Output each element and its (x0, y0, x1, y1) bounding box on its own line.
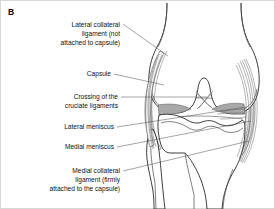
label-line: attached to capsule) (61, 39, 120, 47)
label-line: Medial collateral (72, 167, 120, 174)
label-line: ligament (firmly (75, 176, 120, 184)
label-capsule: Capsule (87, 70, 112, 78)
cruciate-ligaments (196, 91, 213, 109)
label-lateral-meniscus: Lateral meniscus (64, 123, 115, 130)
knee-joint-illustration (145, 3, 259, 209)
label-line: Crossing of the (74, 93, 119, 101)
tibia (158, 114, 245, 209)
label-line: attached to the capsule) (50, 185, 120, 193)
label-line: Lateral meniscus (64, 123, 115, 130)
anatomical-figure-panel: B (0, 0, 275, 209)
panel-letter: B (8, 7, 14, 17)
label-line: ligament (not (82, 30, 120, 38)
label-line: Medial meniscus (65, 143, 115, 150)
label-medial-meniscus: Medial meniscus (65, 143, 115, 150)
label-line: Lateral collateral (72, 21, 121, 28)
label-cruciate-ligaments: Crossing of the cruciate ligaments (65, 93, 119, 110)
label-lateral-collateral-ligament: Lateral collateral ligament (not attache… (61, 21, 121, 47)
label-line: Capsule (87, 70, 112, 78)
label-line: cruciate ligaments (65, 102, 119, 110)
label-medial-collateral-ligament: Medial collateral ligament (firmly attac… (50, 167, 121, 193)
